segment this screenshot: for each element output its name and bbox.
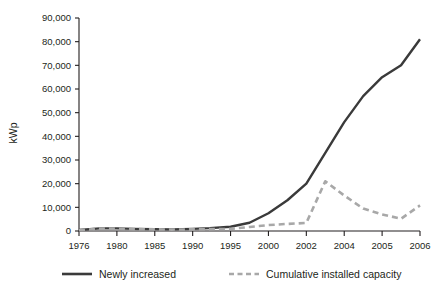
y-tick-labels: 010,00020,00030,00040,00050,00060,00070,…: [42, 12, 71, 236]
data-series: [79, 39, 420, 230]
axis-spine: [79, 18, 420, 231]
line-chart: kWp 010,00020,00030,00040,00050,00060,00…: [0, 0, 435, 289]
y-tick-label: 20,000: [42, 178, 71, 189]
y-tick-label: 40,000: [42, 131, 71, 142]
chart-legend: Newly increasedCumulative installed capa…: [62, 268, 402, 280]
y-tick-label: 50,000: [42, 107, 71, 118]
x-tick-label: 2004: [334, 240, 355, 251]
legend-label-1: Cumulative installed capacity: [266, 268, 402, 280]
x-tick-marks: [79, 231, 420, 236]
x-tick-label: 2006: [409, 240, 430, 251]
x-tick-label: 2002: [296, 240, 317, 251]
y-tick-label: 30,000: [42, 154, 71, 165]
x-tick-label: 1990: [182, 240, 203, 251]
y-tick-label: 70,000: [42, 60, 71, 71]
y-tick-marks: [75, 18, 79, 231]
x-tick-label: 2005: [372, 240, 393, 251]
x-tick-label: 1995: [220, 240, 241, 251]
legend-label-0: Newly increased: [99, 268, 176, 280]
x-tick-label: 2000: [258, 240, 279, 251]
chart-figure: kWp 010,00020,00030,00040,00050,00060,00…: [0, 0, 435, 289]
x-tick-label: 1985: [144, 240, 165, 251]
series-line-0: [79, 39, 420, 230]
y-axis-title: kWp: [7, 122, 19, 143]
y-tick-label: 60,000: [42, 83, 71, 94]
y-tick-label: 10,000: [42, 202, 71, 213]
y-tick-label: 90,000: [42, 12, 71, 23]
y-tick-label: 80,000: [42, 36, 71, 47]
y-tick-label: 0: [66, 225, 71, 236]
y-axis-label: kWp: [7, 122, 19, 143]
x-tick-label: 1976: [68, 240, 89, 251]
x-tick-label: 1980: [106, 240, 127, 251]
x-tick-labels: 1976198019851990199520002002200420052006: [68, 240, 430, 251]
